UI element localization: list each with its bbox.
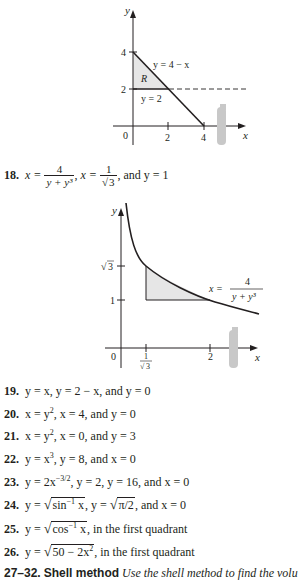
rotation-arrow-icon [229, 327, 238, 368]
problem-text-tail: , in the first quadrant [94, 545, 194, 559]
figure1-x-tick-2: 2 [165, 132, 170, 143]
problem-text: y = x [25, 452, 50, 466]
rotation-arrow-icon [217, 104, 226, 145]
sqrt-icon: √ [44, 521, 52, 536]
problem-number: 22. [4, 452, 25, 466]
region-fill [146, 266, 210, 300]
eq2-radicand: 3 [108, 175, 116, 188]
eq2-numerator: 1 [100, 163, 118, 176]
y-axis-arrow-icon [118, 208, 124, 216]
figure1-y-label: y [124, 4, 130, 16]
figure2-y-tick-1: 1 [110, 295, 115, 306]
exponent: 2 [89, 544, 93, 553]
line2-label: y = 2 [141, 93, 162, 104]
problem-number: 19. [4, 384, 25, 398]
problem-text: y = x, y = 2 − x, and y = 0 [25, 384, 150, 398]
exponent: −1 [66, 497, 75, 506]
curve-label-den: y + y³ [231, 291, 257, 302]
figure2-origin-label: 0 [111, 351, 116, 362]
radicand-tail: x [77, 522, 86, 536]
exponent: −1 [68, 521, 77, 530]
figure2-x-label: x [254, 351, 260, 363]
heading-title: Shell method [44, 566, 119, 580]
problem-23: 23.y = 2x−3/2, y = 2, y = 16, and x = 0 [4, 475, 189, 489]
figure2-x-tick-den: 3 [146, 362, 150, 370]
figure-1-region-graph: y x 0 2 4 4 2 R y = 4 − x y = 2 [0, 0, 273, 150]
figure1-origin-label: 0 [123, 130, 128, 141]
eq1-denominator: y + y³ [44, 176, 74, 188]
problem-text-tail: , x = 0, and y = 3 [54, 429, 136, 443]
region-label-r: R [140, 73, 147, 84]
problem-20: 20.x = y2, x = 4, and y = 0 [4, 407, 136, 421]
problem-text-mid: , y = [85, 498, 110, 512]
problem-text-tail: , x = 4, and y = 0 [54, 407, 136, 421]
eq1-lhs: x = [25, 168, 41, 183]
problem-21: 21.x = y2, x = 0, and y = 3 [4, 429, 136, 443]
problem-24: 24.y = √sin−1 x, y = √π/2, and x = 0 [4, 498, 186, 512]
radicand: π/2 [117, 497, 134, 512]
section-heading-shell-method: 27–32. Shell method Use the shell method… [4, 566, 298, 581]
radicand: cos [52, 522, 68, 536]
problem-number: 21. [4, 429, 25, 443]
problem-text: x = y [25, 429, 50, 443]
heading-range: 27–32. [4, 566, 41, 580]
problem-25: 25.y = √cos−1 x, in the first quadrant [4, 522, 187, 536]
problem-18: 18. x = 4 y + y³ , x = 1 √3 , and y = 1 [4, 160, 169, 190]
problem-text-tail: , and x = 0 [135, 498, 186, 512]
eq2-denominator: √3 [100, 176, 118, 188]
eq1-fraction: 4 y + y³ [44, 163, 74, 188]
eq-tail: , and y = 1 [117, 168, 168, 183]
eq2-lhs: x = [80, 168, 96, 183]
problem-text: y = [25, 522, 44, 536]
sqrt-icon: √ [44, 544, 52, 559]
curve-label-lhs: x = [208, 283, 223, 294]
line1-label: y = 4 − x [153, 59, 189, 70]
sqrt-icon: √ [140, 362, 145, 370]
problem-number: 25. [4, 522, 25, 536]
problem-text: x = y [25, 407, 50, 421]
heading-instruction: Use the shell method to find the volu [122, 566, 298, 580]
figure2-x-tick-num: 1 [144, 352, 148, 361]
figure1-y-tick-4: 4 [121, 47, 126, 58]
problem-22: 22.y = x3, y = 8, and x = 0 [4, 452, 136, 466]
problem-19: 19.y = x, y = 2 − x, and y = 0 [4, 384, 150, 398]
problem-number: 18. [4, 168, 25, 183]
problem-text: y = [25, 498, 44, 512]
radicand: sin [52, 498, 66, 512]
figure1-x-label: x [242, 129, 248, 141]
figure1-x-tick-4: 4 [201, 132, 206, 143]
problem-number: 20. [4, 407, 25, 421]
figure-2-region-graph: y x 0 2 1 √ 3 √ 3 1 x = 4 y + y³ [0, 195, 273, 370]
figure2-y-label: y [111, 204, 117, 216]
y-axis-arrow-icon [130, 10, 136, 18]
problem-number: 23. [4, 475, 25, 489]
problem-text-tail: , y = 2, y = 16, and x = 0 [71, 475, 190, 489]
figure2-x-tick-2: 2 [208, 351, 213, 362]
figure2-y-tick-sqrt3: 3 [108, 261, 113, 272]
figure1-y-tick-2: 2 [121, 84, 126, 95]
eq2-fraction: 1 √3 [100, 163, 118, 188]
problem-text-tail: , y = 8, and x = 0 [54, 452, 136, 466]
sqrt-icon: √ [44, 497, 52, 512]
problem-text: y = [25, 545, 44, 559]
radicand-tail: x [75, 498, 84, 512]
problem-text-tail: , in the first quadrant [87, 522, 187, 536]
curve-label-num: 4 [245, 276, 250, 287]
sqrt-icon: √ [101, 261, 107, 272]
sqrt-icon: √ [110, 497, 118, 512]
problem-number: 26. [4, 545, 25, 559]
problem-text: y = 2x [25, 475, 56, 489]
eq1-numerator: 4 [44, 163, 74, 176]
exponent: −3/2 [56, 474, 71, 483]
problem-26: 26.y = √50 − 2x2, in the first quadrant [4, 545, 195, 559]
radicand: 50 − 2x [52, 545, 89, 559]
problem-number: 24. [4, 498, 25, 512]
